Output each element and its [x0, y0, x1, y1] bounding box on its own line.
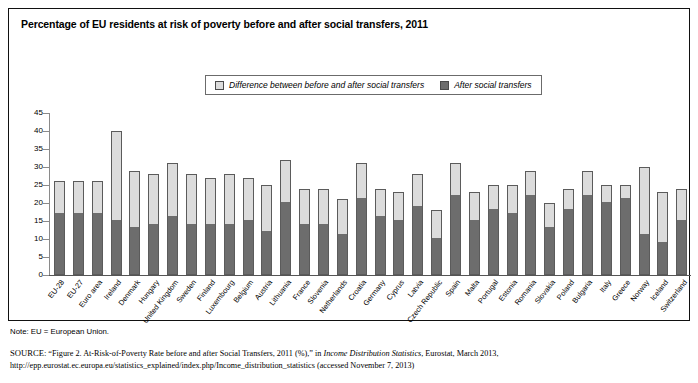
y-tick-mark [43, 113, 49, 114]
x-label-slot: United Kingdom [163, 276, 182, 332]
x-label-slot: Belgium [239, 276, 258, 332]
bar-before-transfers [620, 185, 631, 275]
bar-after-transfers [583, 195, 592, 274]
x-label-slot: Switzerland [672, 276, 691, 332]
bar-after-transfers [621, 198, 630, 274]
bar-group [50, 113, 69, 275]
source-label: SOURCE: [10, 348, 46, 358]
bar-group [107, 113, 126, 275]
bar-before-transfers [243, 178, 254, 275]
y-tick-mark [43, 239, 49, 240]
x-label-slot: Netherlands [333, 276, 352, 332]
y-tick-mark [43, 149, 49, 150]
source-text-part1: “Figure 2. At-Risk-of-Poverty Rate befor… [48, 349, 323, 358]
bar-after-transfers [508, 213, 517, 274]
x-label-slot: Poland [559, 276, 578, 332]
bar-before-transfers [393, 192, 404, 275]
bar-group [276, 113, 295, 275]
bar-group [295, 113, 314, 275]
bar-after-transfers [470, 220, 479, 274]
bar-group [408, 113, 427, 275]
y-tick-label: 45 [17, 109, 43, 117]
bar-after-transfers [640, 234, 649, 274]
bar-before-transfers [412, 174, 423, 275]
bar-after-transfers [74, 213, 83, 274]
bar-after-transfers [658, 242, 667, 274]
bar-group [616, 113, 635, 275]
legend-swatch-dark-icon [440, 81, 449, 90]
x-label-slot: Norway [635, 276, 654, 332]
x-label-slot: Portugal [484, 276, 503, 332]
bar-after-transfers [130, 227, 139, 274]
bar-before-transfers [657, 192, 668, 275]
x-tick-label: EU-28 [47, 278, 67, 300]
bar-after-transfers [413, 206, 422, 274]
legend-label-after: After social transfers [454, 80, 531, 90]
bar-after-transfers [602, 202, 611, 274]
x-axis-labels: EU-28EU-27Euro areaIrelandDenmarkHungary… [50, 276, 691, 332]
bar-group [521, 113, 540, 275]
bar-before-transfers [356, 163, 367, 275]
x-label-slot: Bulgaria [578, 276, 597, 332]
bar-after-transfers [93, 213, 102, 274]
bar-group [446, 113, 465, 275]
bar-group [389, 113, 408, 275]
figure-page: Percentage of EU residents at risk of po… [0, 0, 698, 383]
y-tick-label: 30 [17, 163, 43, 171]
bar-group [201, 113, 220, 275]
legend-item-after: After social transfers [440, 80, 531, 90]
bar-after-transfers [526, 195, 535, 274]
bar-after-transfers [55, 213, 64, 274]
bar-after-transfers [451, 195, 460, 274]
bar-after-transfers [564, 209, 573, 274]
bar-after-transfers [394, 220, 403, 274]
bar-before-transfers [167, 163, 178, 275]
x-label-slot: Greece [616, 276, 635, 332]
bar-before-transfers [488, 185, 499, 275]
bar-after-transfers [319, 224, 328, 274]
y-tick-label: 20 [17, 199, 43, 207]
bar-before-transfers [148, 174, 159, 275]
bar-before-transfers [563, 189, 574, 275]
figure-frame: Percentage of EU residents at risk of po… [8, 8, 690, 321]
bar-before-transfers [431, 210, 442, 275]
y-tick-mark [43, 185, 49, 186]
y-tick-mark [43, 203, 49, 204]
bar-after-transfers [357, 198, 366, 274]
bar-group [465, 113, 484, 275]
bar-before-transfers [129, 171, 140, 275]
bar-group [654, 113, 673, 275]
y-tick-label: 35 [17, 145, 43, 153]
x-label-slot: Sweden [182, 276, 201, 332]
bar-before-transfers [525, 171, 536, 275]
y-tick-mark [43, 167, 49, 168]
bar-after-transfers [338, 234, 347, 274]
x-label-slot: Slovakia [540, 276, 559, 332]
bar-before-transfers [601, 185, 612, 275]
bar-before-transfers [639, 167, 650, 275]
x-tick-label: Spain [444, 278, 463, 298]
bar-group [163, 113, 182, 275]
bar-after-transfers [281, 202, 290, 274]
bar-after-transfers [244, 220, 253, 274]
bar-group [144, 113, 163, 275]
bar-before-transfers [450, 163, 461, 275]
chart-legend: Difference between before and after soci… [205, 75, 542, 95]
bar-before-transfers [299, 189, 310, 275]
bar-group [484, 113, 503, 275]
bar-before-transfers [54, 181, 65, 275]
x-label-slot: EU-28 [50, 276, 69, 332]
legend-label-difference: Difference between before and after soci… [229, 80, 424, 90]
bar-group [220, 113, 239, 275]
y-tick-mark [43, 257, 49, 258]
bar-after-transfers [168, 216, 177, 274]
bar-before-transfers [676, 189, 687, 275]
bar-before-transfers [111, 131, 122, 275]
bar-series-container [50, 113, 691, 275]
bar-group [597, 113, 616, 275]
y-tick-label: 10 [17, 235, 43, 243]
bar-group [672, 113, 691, 275]
bar-group [578, 113, 597, 275]
bar-after-transfers [677, 220, 686, 274]
bar-before-transfers [544, 203, 555, 275]
